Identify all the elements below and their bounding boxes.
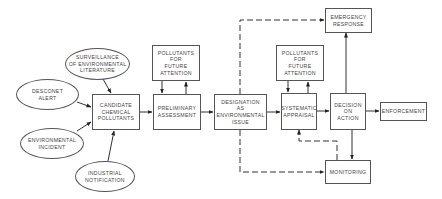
box-designation-environmental-issue: DESIGNATION AS ENVIRONMENTAL ISSUE bbox=[214, 94, 267, 130]
box-enforcement: ENFORCEMENT bbox=[380, 102, 427, 121]
dashed-monitoring-to-systematic bbox=[299, 130, 337, 160]
node-surveillance-literature: SURVEILLANCE OF ENVIRONMENTAL LITERATURE bbox=[65, 48, 130, 80]
box-decision-on-action: DECISION ON ACTION bbox=[330, 93, 366, 130]
box-emergency-response: EMERGENCY RESPONSE bbox=[325, 8, 372, 33]
arrow-industrial-to-candidate bbox=[108, 131, 114, 161]
box-preliminary-assessment: PRELIMINARY ASSESSMENT bbox=[153, 94, 201, 130]
box-pollutants-future-attention-1: POLLUTANTS FOR FUTURE ATTENTION bbox=[152, 45, 200, 81]
node-industrial-notification: INDUSTRIAL NOTIFICATION bbox=[75, 161, 135, 192]
arrow-desconet-to-candidate bbox=[77, 102, 91, 107]
node-environmental-incident: ENVIRONMENTAL INCIDENT bbox=[20, 128, 84, 159]
box-monitoring: MONITORING bbox=[325, 160, 371, 184]
arrow-incident-to-candidate bbox=[77, 122, 91, 131]
box-candidate-chemical-pollutants: CANDIDATE CHEMICAL POLLUTANTS bbox=[92, 94, 140, 130]
arrow-surveillance-to-candidate bbox=[103, 79, 111, 93]
box-systematic-appraisal: SYSTEMATIC APPRAISAL bbox=[281, 93, 317, 130]
box-pollutants-future-attention-2: POLLUTANTS FOR FUTURE ATTENTION bbox=[276, 45, 324, 81]
dashed-designation-to-monitoring bbox=[240, 130, 324, 172]
node-desconet-alert: DESCONET ALERT bbox=[16, 79, 79, 110]
